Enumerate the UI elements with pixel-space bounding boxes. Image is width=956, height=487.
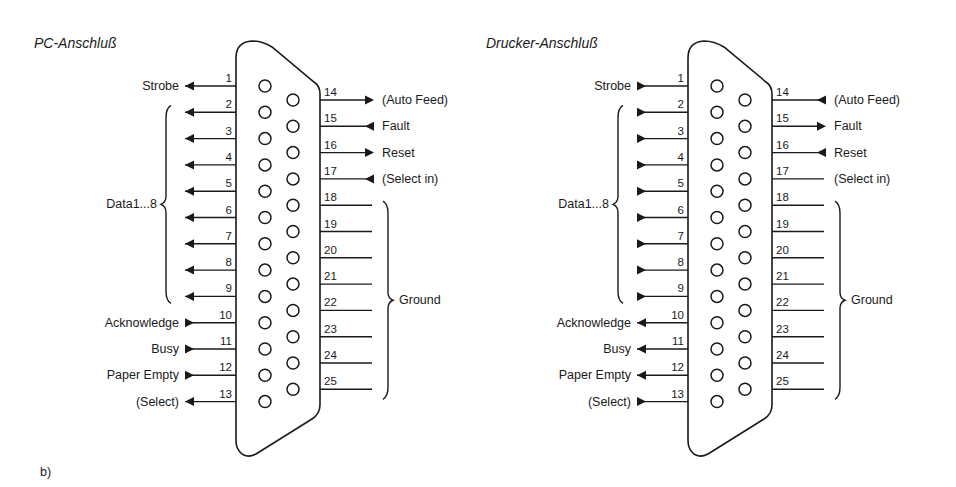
pin-number: 3 (678, 125, 684, 137)
ground-group-label: Ground (851, 293, 893, 307)
arrow-right-icon (637, 134, 646, 143)
pin-hole (259, 238, 271, 250)
pin-number: 18 (776, 191, 789, 203)
pin-hole (711, 343, 723, 355)
pin-number: 17 (776, 165, 789, 177)
ground-group-label: Ground (399, 293, 441, 307)
pin-hole (739, 331, 751, 343)
pin-hole (259, 396, 271, 408)
pin-hole (259, 317, 271, 329)
printer-connector: Drucker-Anschluß1Strobe2345678910Acknowl… (486, 35, 900, 456)
arrow-left-icon (365, 122, 374, 131)
pin-number: 7 (678, 230, 684, 242)
arrow-right-icon (637, 239, 646, 248)
arrow-left-icon (185, 187, 194, 196)
pin-hole (739, 252, 751, 264)
pin-number: 23 (324, 323, 337, 335)
pin-number: 5 (226, 177, 232, 189)
pin-hole (259, 369, 271, 381)
arrow-left-icon (817, 96, 826, 105)
pin-hole (287, 331, 299, 343)
pin-hole (739, 147, 751, 159)
pin-hole (739, 226, 751, 238)
arrow-left-icon (185, 239, 194, 248)
pin-number: 13 (671, 388, 684, 400)
arrow-left-icon (185, 266, 194, 275)
arrow-right-icon (637, 292, 646, 301)
pin-number: 22 (776, 296, 789, 308)
signal-label: (Select in) (834, 172, 890, 186)
arrow-left-icon (185, 397, 194, 406)
signal-label: Acknowledge (557, 316, 631, 330)
pin-number: 16 (324, 139, 337, 151)
pin-number: 11 (220, 335, 232, 347)
pin-number: 1 (678, 72, 684, 84)
arrow-left-icon (185, 108, 194, 117)
pin-hole (739, 383, 751, 395)
pin-number: 6 (226, 204, 232, 216)
connector-title: Drucker-Anschluß (486, 35, 598, 51)
pin-number: 23 (776, 323, 789, 335)
pin-hole (711, 396, 723, 408)
pin-hole (287, 226, 299, 238)
data-group-label: Data1...8 (558, 197, 609, 211)
pin-hole (287, 173, 299, 185)
pin-number: 2 (678, 98, 684, 110)
pin-hole (739, 357, 751, 369)
pin-hole (287, 357, 299, 369)
arrow-left-icon (637, 371, 646, 380)
arrow-right-icon (637, 82, 646, 91)
pin-hole (259, 106, 271, 118)
pin-hole (259, 133, 271, 145)
pin-number: 25 (776, 375, 789, 387)
arrow-left-icon (185, 134, 194, 143)
arrow-right-icon (365, 148, 374, 157)
pin-number: 10 (671, 309, 684, 321)
arrow-left-icon (185, 213, 194, 222)
pin-number: 14 (324, 86, 337, 98)
signal-label: Busy (603, 342, 632, 356)
pin-hole (287, 252, 299, 264)
signal-label: (Auto Feed) (834, 93, 900, 107)
pin-hole (711, 159, 723, 171)
pin-hole (711, 369, 723, 381)
pin-hole (711, 317, 723, 329)
pin-number: 24 (324, 349, 337, 361)
pin-number: 10 (219, 309, 232, 321)
arrow-left-icon (185, 292, 194, 301)
parallel-port-pinout-diagram: PC-Anschluß1Strobe2345678910Acknowledge1… (0, 0, 956, 487)
arrow-right-icon (637, 108, 646, 117)
pin-hole (711, 212, 723, 224)
signal-label: (Select) (588, 395, 631, 409)
arrow-right-icon (637, 213, 646, 222)
pin-hole (259, 343, 271, 355)
arrow-right-icon (637, 397, 646, 406)
arrow-right-icon (185, 345, 194, 354)
arrow-left-icon (185, 82, 194, 91)
pin-hole (287, 278, 299, 290)
arrow-right-icon (365, 96, 374, 105)
pin-number: 18 (324, 191, 337, 203)
pin-number: 12 (219, 361, 232, 373)
pin-hole (259, 159, 271, 171)
arrow-left-icon (817, 148, 826, 157)
arrow-right-icon (637, 266, 646, 275)
pin-hole (739, 173, 751, 185)
pin-number: 19 (776, 218, 789, 230)
signal-label: Acknowledge (105, 316, 179, 330)
pin-hole (739, 199, 751, 211)
pin-number: 4 (226, 151, 233, 163)
pin-hole (287, 199, 299, 211)
signal-label: Strobe (142, 79, 179, 93)
signal-label: Fault (382, 119, 410, 133)
pin-number: 5 (678, 177, 684, 189)
pin-number: 4 (678, 151, 685, 163)
arrow-right-icon (817, 122, 826, 131)
data-group-label: Data1...8 (106, 197, 157, 211)
pin-number: 13 (219, 388, 232, 400)
arrow-right-icon (185, 318, 194, 327)
pin-hole (739, 120, 751, 132)
pin-number: 8 (678, 256, 684, 268)
pin-hole (259, 212, 271, 224)
signal-label: Strobe (594, 79, 631, 93)
